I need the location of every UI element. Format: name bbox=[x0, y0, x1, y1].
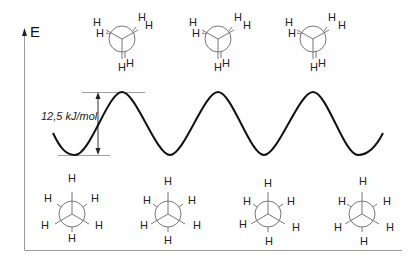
h-label: H bbox=[239, 219, 247, 230]
newman-eclipsed-1 bbox=[106, 26, 138, 59]
h-label: H bbox=[164, 176, 172, 187]
diagram-svg bbox=[0, 0, 417, 263]
h-label: H bbox=[334, 222, 342, 233]
newman-eclipsed-2 bbox=[202, 26, 234, 59]
h-label: H bbox=[338, 196, 346, 207]
h-label: H bbox=[288, 28, 296, 39]
h-label: H bbox=[222, 58, 230, 69]
h-label: H bbox=[264, 178, 272, 189]
h-label: H bbox=[292, 222, 300, 233]
h-label: H bbox=[188, 195, 196, 206]
h-label: H bbox=[328, 12, 336, 23]
barrier-reference-lines bbox=[58, 93, 145, 156]
energy-barrier-label: 12,5 kJ/mol bbox=[41, 110, 97, 122]
energy-curve bbox=[53, 92, 383, 155]
h-label: H bbox=[214, 62, 222, 73]
h-label: H bbox=[44, 193, 52, 204]
h-label: H bbox=[95, 220, 103, 231]
energy-axis-label: E bbox=[30, 23, 40, 40]
h-label: H bbox=[164, 235, 172, 246]
h-label: H bbox=[338, 20, 346, 31]
h-label: H bbox=[41, 220, 49, 231]
h-label: H bbox=[96, 28, 104, 39]
newman-staggered-2 bbox=[151, 192, 185, 232]
h-label: H bbox=[383, 196, 391, 207]
h-label: H bbox=[318, 58, 326, 69]
newman-staggered-3 bbox=[251, 192, 285, 232]
h-label: H bbox=[243, 196, 251, 207]
h-label: H bbox=[310, 62, 318, 73]
newman-staggered-4 bbox=[345, 192, 379, 232]
h-label: H bbox=[68, 233, 76, 244]
h-label: H bbox=[140, 220, 148, 231]
h-label: H bbox=[192, 28, 200, 39]
h-label: H bbox=[193, 220, 201, 231]
h-label: H bbox=[91, 193, 99, 204]
h-label: H bbox=[386, 222, 394, 233]
h-label: H bbox=[118, 62, 126, 73]
h-label: H bbox=[359, 176, 367, 187]
h-label: H bbox=[68, 173, 76, 184]
h-label: H bbox=[243, 20, 251, 31]
h-label: H bbox=[287, 196, 295, 207]
h-label: H bbox=[360, 236, 368, 247]
y-axis-arrow-icon bbox=[22, 28, 27, 36]
h-label: H bbox=[126, 58, 134, 69]
newman-staggered-1 bbox=[55, 192, 89, 232]
h-label: H bbox=[143, 195, 151, 206]
h-label: H bbox=[265, 236, 273, 247]
h-label: H bbox=[234, 12, 242, 23]
h-label: H bbox=[145, 20, 153, 31]
conformational-energy-diagram: E 12,5 kJ/mol H H H H H H H H H H H H H … bbox=[0, 0, 417, 263]
newman-eclipsed-3 bbox=[297, 26, 329, 59]
